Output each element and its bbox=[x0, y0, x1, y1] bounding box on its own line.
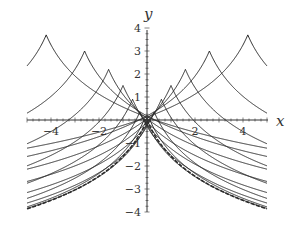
y-axis-label: y bbox=[143, 5, 153, 23]
chart: −4−224 −4−3−2−11234 x y bbox=[0, 0, 303, 237]
x-axis-label: x bbox=[276, 112, 285, 130]
y-tick-label: 1 bbox=[134, 91, 141, 104]
axes: −4−224 −4−3−2−11234 bbox=[27, 22, 268, 219]
y-tick-label: 3 bbox=[134, 45, 141, 58]
y-tick-label: −4 bbox=[125, 206, 141, 219]
y-tick-label: −1 bbox=[125, 137, 141, 150]
y-tick-label: 4 bbox=[134, 22, 141, 35]
y-tick-label: 2 bbox=[134, 68, 141, 81]
x-tick-label: 2 bbox=[192, 125, 199, 138]
y-tick-label: −2 bbox=[125, 160, 141, 173]
x-tick-label: −2 bbox=[91, 125, 107, 138]
x-tick-label: −4 bbox=[43, 125, 59, 138]
x-tick-label: 4 bbox=[240, 125, 247, 138]
y-tick-label: −3 bbox=[125, 183, 141, 196]
